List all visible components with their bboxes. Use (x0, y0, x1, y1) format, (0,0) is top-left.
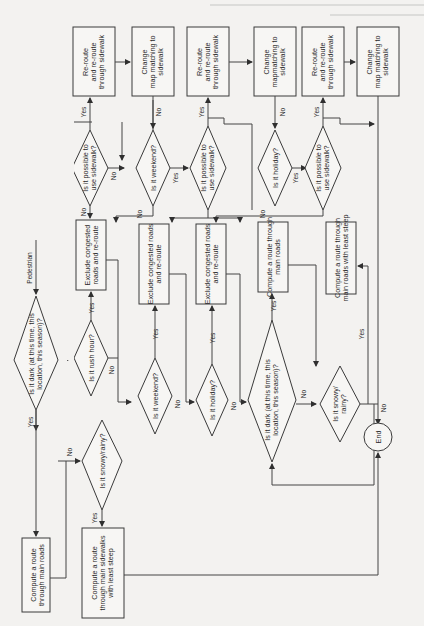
svg-text:No: No (108, 365, 115, 374)
box-bike-change-2: Changemapmatching tosidewalk (254, 27, 296, 96)
svg-text:Yes: Yes (313, 106, 320, 117)
svg-text:No: No (230, 401, 237, 410)
svg-text:Is it weekend?: Is it weekend? (151, 373, 160, 419)
svg-text:Yes: Yes (292, 172, 299, 183)
svg-text:Yes: Yes (54, 172, 61, 183)
svg-text:Is it dark (at this time, this: Is it dark (at this time, thislocation, … (27, 313, 44, 395)
svg-text:No: No (380, 403, 387, 412)
rotated-document-page: Modes of travel Bike Rider Pedestrian Dr… (0, 0, 424, 626)
svg-text:End: End (374, 431, 383, 444)
svg-text:Yes: Yes (27, 416, 34, 427)
svg-text:Yes: Yes (80, 106, 87, 117)
svg-text:Yes: Yes (198, 106, 205, 117)
box-bike-change-1: Changemap matching tosidewalk (132, 27, 174, 96)
svg-text:Yes: Yes (152, 328, 159, 339)
svg-text:Is it rush hour?: Is it rush hour? (87, 334, 96, 382)
flowchart: Re-routeand re-routethrough sidewalk Cha… (0, 0, 424, 626)
svg-text:No: No (174, 399, 181, 408)
box-bike-reroute-3: Re-routeand re-routethrough sidewalk (302, 27, 344, 96)
svg-text:No: No (259, 209, 266, 218)
svg-text:Is it snowy/rainy?: Is it snowy/rainy? (98, 433, 107, 488)
box-bike-change-3: Changemap matching tosidewalk (357, 27, 399, 96)
svg-text:Yes: Yes (209, 332, 216, 343)
svg-text:Is it possible touse sidewalk?: Is it possible touse sidewalk? (314, 144, 331, 192)
svg-text:Yes: Yes (88, 302, 95, 313)
svg-text:No: No (50, 113, 57, 122)
svg-text:Is it possible touse sidewalk?: Is it possible touse sidewalk? (199, 144, 216, 192)
svg-text:Yes: Yes (270, 300, 277, 311)
box-bike-reroute-2: Re-routeand re-routethrough sidewalk (187, 27, 229, 96)
svg-text:No: No (66, 447, 73, 456)
svg-text:Is it holiday?: Is it holiday? (271, 148, 280, 188)
svg-text:Is it weekend?: Is it weekend? (149, 145, 158, 191)
svg-text:Yes: Yes (358, 328, 365, 339)
svg-text:No: No (110, 171, 117, 180)
svg-text:No: No (155, 107, 162, 116)
box-bike-reroute-1: Re-routeand re-routethrough sidewalk (73, 27, 115, 96)
label-pedestrian: Pedestrian (26, 252, 33, 284)
svg-text:Yes: Yes (91, 512, 98, 523)
svg-text:Yes: Yes (172, 172, 179, 183)
svg-text:Exclude congestedroads and re-: Exclude congestedroads and re-route (83, 225, 100, 286)
bike-sidewalk-1-text: Is it possible touse sidewalk? (81, 144, 98, 192)
label-driver: Driver (60, 230, 67, 248)
svg-text:No: No (136, 209, 143, 218)
svg-text:Is it dark (at this time, this: Is it dark (at this time, thislocation, … (263, 359, 280, 441)
svg-text:No: No (80, 207, 87, 216)
svg-text:Compute a route throughmain ro: Compute a route throughmain roads with l… (333, 214, 350, 301)
svg-text:Compute a routethrough main ro: Compute a routethrough main roads (29, 544, 46, 606)
svg-text:No: No (279, 107, 286, 116)
svg-text:Is it holiday?: Is it holiday? (208, 380, 217, 420)
svg-text:No: No (300, 389, 307, 398)
